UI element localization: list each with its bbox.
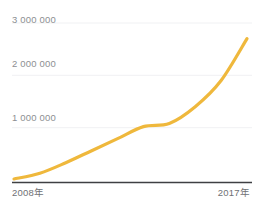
line-chart: 3 000 000 2 000 000 1 000 000 2008年 2017… bbox=[0, 0, 264, 211]
x-axis-tick-label-start: 2008年 bbox=[12, 188, 44, 198]
y-axis-tick-label-1000000: 1 000 000 bbox=[12, 113, 56, 123]
chart-canvas bbox=[0, 0, 264, 211]
y-axis-tick-label-3000000: 3 000 000 bbox=[12, 15, 56, 25]
chart-screenshot: 3 000 000 2 000 000 1 000 000 2008年 2017… bbox=[0, 0, 264, 211]
y-axis-tick-label-2000000: 2 000 000 bbox=[12, 59, 56, 69]
x-axis-tick-label-end: 2017年 bbox=[218, 188, 250, 198]
